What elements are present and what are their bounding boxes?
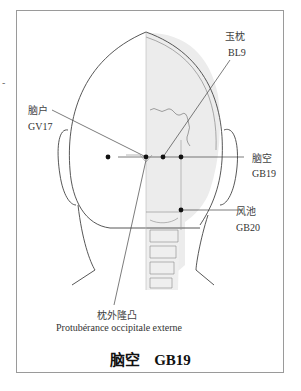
- bl9-dot: [161, 155, 166, 160]
- gb19-code-label: GB19: [252, 168, 276, 179]
- caption-code: GB19: [154, 352, 191, 368]
- bl9-code-label: BL9: [228, 47, 246, 58]
- gb20-code-label: GB20: [236, 222, 260, 233]
- gv17-left-dot: [106, 155, 111, 160]
- neck-left: [72, 205, 95, 285]
- caption-chinese: 脑空: [110, 351, 140, 369]
- gb19-chinese-label: 脑空: [252, 150, 272, 165]
- landmark-leader: [114, 160, 146, 305]
- gb20-chinese-label: 风池: [236, 203, 256, 218]
- left-ear: [58, 130, 76, 205]
- gb19-dot: [179, 155, 184, 160]
- gv17-chinese-label: 脑户: [28, 102, 48, 117]
- gv17-code-label: GV17: [28, 121, 52, 132]
- bl9-chinese-label: 玉枕: [225, 28, 245, 43]
- neck-right: [196, 215, 214, 285]
- landmark-french-label: Protubérance occipitale externe: [56, 322, 182, 333]
- landmark-chinese-label: 枕外隆凸: [97, 307, 137, 322]
- gv17-leader: [52, 110, 146, 157]
- gv17-dot: [144, 155, 149, 160]
- gb20-dot: [179, 208, 184, 213]
- figure-caption: 脑空GB19: [0, 348, 301, 369]
